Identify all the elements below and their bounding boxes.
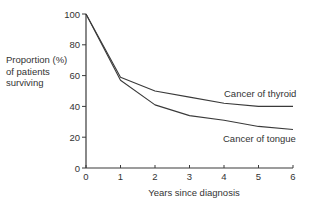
x-tick-label: 3 (187, 171, 192, 182)
y-tick-label: 80 (69, 39, 80, 50)
y-tick-label: 40 (69, 101, 80, 112)
y-tick-label: 60 (69, 70, 80, 81)
x-tick-label: 1 (118, 171, 123, 182)
x-tick-label: 4 (221, 171, 226, 182)
plot-area: 0204060801000123456 (0, 0, 310, 209)
survival-chart: 0204060801000123456 Proportion (%) of pa… (0, 0, 310, 209)
y-tick-label: 20 (69, 132, 80, 143)
y-axis-label: Proportion (%) of patients surviving (6, 54, 67, 89)
y-tick-label: 100 (64, 9, 80, 20)
x-tick-label: 2 (152, 171, 157, 182)
x-tick-label: 5 (256, 171, 261, 182)
x-tick-label: 6 (290, 171, 295, 182)
series-label-thyroid: Cancer of thyroid (224, 88, 296, 99)
x-tick-label: 0 (83, 171, 88, 182)
y-tick-label: 0 (75, 163, 80, 174)
series-label-tongue: Cancer of tongue (223, 133, 296, 144)
y-axis-label-line-2: of patients (6, 66, 67, 78)
y-axis-label-line-1: Proportion (%) (6, 54, 67, 66)
x-axis-label: Years since diagnosis (0, 187, 310, 198)
y-axis-label-line-3: surviving (6, 77, 67, 89)
